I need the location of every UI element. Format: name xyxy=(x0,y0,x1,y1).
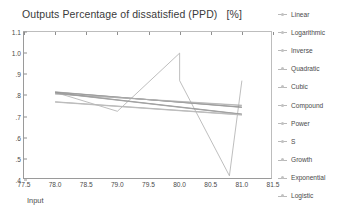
legend-item[interactable]: Compound xyxy=(277,96,338,114)
x-tick-mark xyxy=(55,32,56,35)
legend-item[interactable]: S xyxy=(277,132,338,150)
legend-item-label: Exponential xyxy=(291,174,325,181)
legend-item[interactable]: Inverse xyxy=(277,41,338,59)
legend-item[interactable]: Power xyxy=(277,114,338,132)
y-tick-label: .9 xyxy=(16,71,22,78)
series-line xyxy=(55,53,242,176)
legend-swatch-icon xyxy=(277,47,288,54)
legend-item[interactable]: Exponential xyxy=(277,169,338,187)
y-tick-label: 1.0 xyxy=(12,50,21,57)
legend-swatch-icon xyxy=(277,120,288,127)
x-tick-label: 77.5 xyxy=(18,181,31,188)
legend-item[interactable]: Quadratic xyxy=(277,60,338,78)
y-tick-mark xyxy=(24,95,27,96)
legend-swatch-icon xyxy=(277,29,288,36)
legend-swatch-icon xyxy=(277,65,288,72)
y-tick-mark xyxy=(24,158,27,159)
legend-item[interactable]: Cubic xyxy=(277,78,338,96)
legend-swatch-icon xyxy=(277,192,288,199)
x-axis-label: Input xyxy=(27,196,43,205)
legend-item[interactable]: Growth xyxy=(277,151,338,169)
legend-item[interactable]: Linear xyxy=(277,5,338,23)
y-tick-label: .6 xyxy=(16,134,22,141)
legend-item-label: Logarithmic xyxy=(291,29,325,36)
y-tick-mark xyxy=(24,53,27,54)
legend-swatch-icon xyxy=(277,83,288,90)
plot-area: 1.11.0.9.8.7.6.5.4 77.578.078.579.079.58… xyxy=(23,31,272,179)
x-tick-label: 80.0 xyxy=(173,181,186,188)
x-tick-mark xyxy=(86,32,87,35)
x-tick-mark xyxy=(180,32,181,35)
chart-legend: LinearLogarithmicInverseQuadraticCubicCo… xyxy=(277,5,338,205)
legend-item-label: Quadratic xyxy=(291,65,320,72)
x-tick-label: 80.5 xyxy=(204,181,217,188)
x-tick-label: 78.5 xyxy=(80,181,93,188)
legend-item[interactable]: Logarithmic xyxy=(277,23,338,41)
x-tick-mark xyxy=(242,32,243,35)
y-tick-label: 1.1 xyxy=(12,29,21,36)
legend-item-label: Power xyxy=(291,120,310,127)
legend-item-label: Inverse xyxy=(291,47,313,54)
y-tick-label: .8 xyxy=(16,92,22,99)
y-tick-mark xyxy=(24,116,27,117)
x-tick-mark xyxy=(117,32,118,35)
x-tick-mark xyxy=(24,32,25,35)
plot-lines xyxy=(24,32,273,180)
y-tick-label: .7 xyxy=(16,113,22,120)
chart-container: Outputs Percentage of dissatisfied (PPD)… xyxy=(0,0,338,216)
legend-item-label: Logistic xyxy=(291,192,313,199)
legend-item-label: S xyxy=(291,138,295,145)
y-tick-mark xyxy=(24,74,27,75)
legend-swatch-icon xyxy=(277,11,288,18)
chart-title: Outputs Percentage of dissatisfied (PPD)… xyxy=(22,8,242,20)
legend-item-label: Linear xyxy=(291,11,309,18)
x-tick-label: 78.0 xyxy=(49,181,62,188)
x-tick-mark xyxy=(273,32,274,35)
legend-swatch-icon xyxy=(277,102,288,109)
legend-swatch-icon xyxy=(277,156,288,163)
x-tick-mark xyxy=(149,32,150,35)
x-tick-label: 81.0 xyxy=(235,181,248,188)
y-tick-mark xyxy=(24,137,27,138)
x-tick-label: 79.5 xyxy=(142,181,155,188)
x-tick-label: 79.0 xyxy=(111,181,124,188)
x-tick-mark xyxy=(211,32,212,35)
legend-swatch-icon xyxy=(277,174,288,181)
legend-item-label: Compound xyxy=(291,102,323,109)
legend-item-label: Cubic xyxy=(291,83,308,90)
legend-item[interactable]: Logistic xyxy=(277,187,338,205)
y-tick-label: .5 xyxy=(16,155,22,162)
legend-swatch-icon xyxy=(277,138,288,145)
legend-item-label: Growth xyxy=(291,156,312,163)
